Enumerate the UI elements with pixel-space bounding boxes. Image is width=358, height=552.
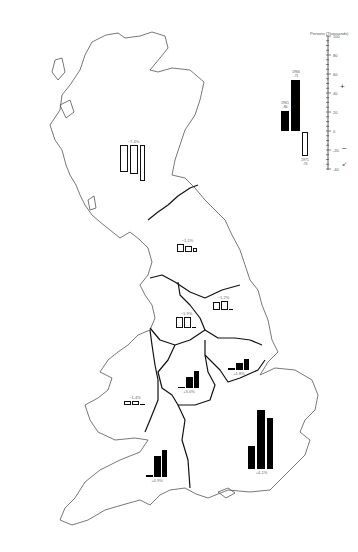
- gain-symbol: +: [340, 82, 345, 91]
- axis-tick-label: 40: [333, 91, 337, 96]
- legend-bar-3: [302, 132, 308, 156]
- axis-tick-label: 100: [333, 34, 340, 39]
- legend-label-1: 1961 -66: [279, 101, 291, 109]
- axis-tick-label: 60: [333, 72, 337, 77]
- legend-label-3: 1971 -74: [299, 158, 311, 166]
- axis-tick-label: 80: [333, 53, 337, 58]
- legend-bar-2: [291, 80, 300, 131]
- legend-bar-1: [281, 111, 289, 131]
- axis-tick-label: -20: [333, 148, 339, 153]
- axis-tick-label: 20: [333, 110, 337, 115]
- axis-tick-label: 0: [333, 129, 335, 134]
- other-symbol: ↙: [342, 160, 347, 167]
- axis-tick-label: -40: [333, 167, 339, 172]
- loss-symbol: −: [342, 144, 347, 153]
- legend-label-2: 1966 -71: [290, 70, 302, 78]
- legend-axis: [0, 0, 358, 552]
